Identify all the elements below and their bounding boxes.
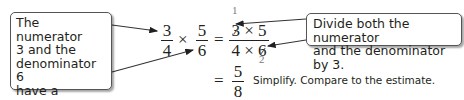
- times-sign: ×: [178, 31, 188, 48]
- fraction-result: 5 8: [232, 63, 244, 99]
- simplify-note: Simplify. Compare to the estimate.: [253, 74, 435, 86]
- callout-divide: Divide both the numerator and the denomi…: [306, 13, 462, 46]
- callout-line: Divide both the numerator: [313, 17, 455, 44]
- times-sign: ×: [244, 21, 254, 40]
- denominator-four: 4: [231, 41, 240, 60]
- times-sign: ×: [244, 41, 254, 60]
- fraction-product: 3 × 5 4 × 6: [229, 22, 269, 59]
- denominator: 4: [161, 42, 173, 59]
- fraction-three-fourths: 3 4: [161, 22, 173, 59]
- product-numerator: 3 × 5: [229, 22, 269, 39]
- denominator: 6: [196, 42, 208, 59]
- callout-line: 3 and the: [16, 43, 106, 57]
- equals-sign: =: [214, 31, 224, 48]
- callout-line: The numerator: [16, 16, 106, 43]
- callout-line: denominator 6: [16, 57, 106, 84]
- cancelled-six: 6: [258, 42, 267, 59]
- numerator-five: 5: [258, 21, 267, 40]
- fraction-five-sixths: 5 6: [196, 22, 208, 59]
- numerator: 5: [196, 22, 208, 39]
- cancelled-three: 3: [231, 22, 240, 39]
- callout-line: have a common: [16, 84, 106, 100]
- callout-common-factor: The numerator 3 and the denominator 6 ha…: [10, 12, 112, 90]
- denominator: 8: [232, 83, 244, 99]
- result-equals-sign: =: [214, 72, 224, 89]
- numerator: 5: [232, 63, 244, 80]
- callout-line: and the denominator by 3.: [313, 44, 455, 71]
- numerator: 3: [161, 22, 173, 39]
- cancel-result-top: 1: [232, 5, 238, 16]
- product-denominator: 4 × 6: [229, 42, 269, 59]
